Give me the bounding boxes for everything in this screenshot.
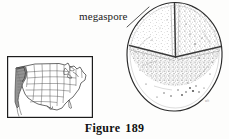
figure-plate: megaspore xyxy=(0,0,229,139)
caption-word: Figure xyxy=(85,121,121,135)
us-map-icon xyxy=(7,56,93,118)
distribution-map xyxy=(7,56,93,118)
caption-number: 189 xyxy=(125,121,144,135)
artist-signature: wlt xyxy=(205,99,209,103)
megaspore-drawing-icon xyxy=(124,0,226,116)
megaspore-label: megaspore xyxy=(79,11,128,22)
megaspore-illustration xyxy=(124,0,226,116)
figure-caption: Figure189 xyxy=(0,122,229,135)
